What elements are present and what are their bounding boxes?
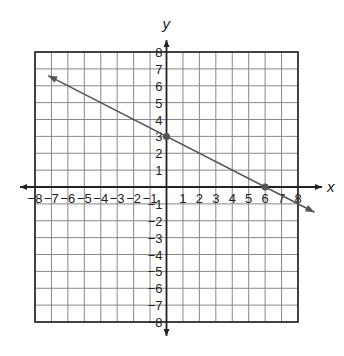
- y-tick-label: 8: [155, 45, 162, 60]
- x-tick-label: 2: [196, 191, 203, 206]
- y-tick-label: −2: [148, 214, 163, 229]
- data-point: [262, 184, 269, 191]
- x-tick-label: −6: [60, 191, 75, 206]
- y-tick-label: 4: [155, 113, 162, 128]
- x-tick-label: 4: [229, 191, 236, 206]
- x-tick-label: −3: [110, 191, 125, 206]
- x-tick-label: −2: [126, 191, 141, 206]
- x-axis-label: x: [326, 178, 335, 195]
- y-tick-label: −6: [148, 281, 163, 296]
- x-tick-label: 3: [212, 191, 219, 206]
- y-axis-label: y: [162, 15, 172, 32]
- x-tick-label: −5: [77, 191, 92, 206]
- data-point: [163, 133, 170, 140]
- line-arrow-start-icon: [48, 76, 58, 83]
- x-tick-label: −4: [93, 191, 108, 206]
- y-tick-label: 6: [155, 79, 162, 94]
- x-tick-label: 5: [245, 191, 252, 206]
- line-arrow-end-icon: [305, 205, 315, 212]
- y-tick-label: −3: [148, 231, 163, 246]
- x-axis-arrow-left-icon: [20, 184, 27, 190]
- y-tick-label: −5: [148, 264, 163, 279]
- y-tick-label: −4: [148, 248, 163, 263]
- y-tick-label: −8: [148, 315, 163, 330]
- y-tick-label: −7: [148, 298, 163, 313]
- x-axis-arrow-right-icon: [315, 184, 322, 190]
- y-axis-arrow-up-icon: [164, 40, 170, 47]
- y-tick-label: 1: [155, 163, 162, 178]
- y-tick-label: 5: [155, 96, 162, 111]
- y-tick-label: 2: [155, 146, 162, 161]
- x-tick-label: 1: [179, 191, 186, 206]
- y-tick-label: −1: [148, 197, 163, 212]
- coordinate-plane: −8−7−6−5−4−3−2−112345678−8−7−6−5−4−3−2−1…: [0, 0, 344, 356]
- x-tick-label: −7: [44, 191, 59, 206]
- x-tick-label: 6: [262, 191, 269, 206]
- y-tick-label: 7: [155, 62, 162, 77]
- x-tick-label: −8: [28, 191, 43, 206]
- y-axis-arrow-down-icon: [164, 329, 170, 336]
